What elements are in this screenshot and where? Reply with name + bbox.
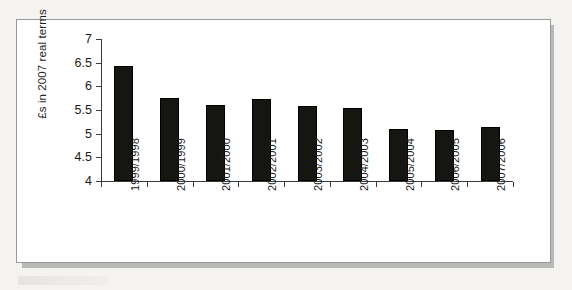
- x-tick-mark: [513, 182, 514, 187]
- y-tick-label: 7: [58, 33, 92, 46]
- x-tick-mark: [238, 182, 239, 187]
- bar-chart: £s in 2007 real terms 44.555.566.57 1999…: [17, 20, 550, 262]
- y-tick-label: 6: [58, 80, 92, 93]
- y-tick-mark: [96, 134, 101, 135]
- x-tick-mark: [376, 182, 377, 187]
- x-tick-label: 2004/2003: [358, 138, 370, 191]
- x-tick-label: 2002/2001: [266, 138, 278, 191]
- x-tick-mark: [147, 182, 148, 187]
- x-tick-mark: [284, 182, 285, 187]
- x-tick-label: 2007/2006: [495, 138, 507, 191]
- x-tick-mark: [421, 182, 422, 187]
- y-tick-label: 6.5: [58, 57, 92, 70]
- y-axis-title: £s in 2007 real terms: [36, 0, 48, 135]
- y-tick-mark: [96, 86, 101, 87]
- y-axis-line: [101, 39, 102, 181]
- y-tick-label: 5.5: [58, 104, 92, 117]
- y-tick-label: 4.5: [58, 151, 92, 164]
- caption-remnant: [18, 276, 108, 285]
- y-tick-mark: [96, 110, 101, 111]
- x-tick-mark: [101, 182, 102, 187]
- x-tick-label: 2005/2004: [404, 138, 416, 191]
- figure-panel: £s in 2007 real terms 44.555.566.57 1999…: [16, 19, 551, 263]
- x-tick-mark: [330, 182, 331, 187]
- x-tick-label: 2006/2005: [449, 138, 461, 191]
- x-tick-label: 1999/1998: [129, 138, 141, 191]
- y-tick-label: 4: [58, 175, 92, 188]
- x-tick-mark: [467, 182, 468, 187]
- x-tick-label: 2000/1999: [175, 138, 187, 191]
- y-tick-label: 5: [58, 128, 92, 141]
- y-tick-mark: [96, 63, 101, 64]
- x-tick-label: 2001/2000: [220, 138, 232, 191]
- x-tick-label: 2003/2002: [312, 138, 324, 191]
- x-tick-mark: [193, 182, 194, 187]
- y-tick-mark: [96, 39, 101, 40]
- y-tick-mark: [96, 157, 101, 158]
